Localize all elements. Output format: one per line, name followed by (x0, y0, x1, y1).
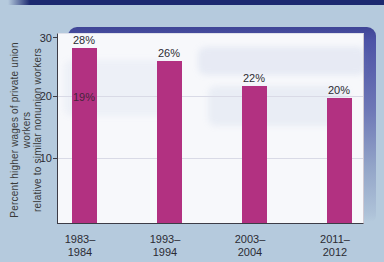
x-tick-label-2003-2004: 2003– 2004 (225, 233, 275, 258)
x-tick-label-2011-2012: 2011– 2012 (310, 233, 360, 258)
x-tick-line2: 1984 (55, 246, 105, 259)
bar-value-label: 22% (243, 72, 265, 84)
x-tick-line1: 1993– (140, 233, 190, 246)
y-axis-title: Percent higher wages of private union wo… (9, 30, 33, 230)
bar (327, 98, 352, 223)
x-tick-line2: 1994 (140, 246, 190, 259)
bar-value-label: 26% (158, 47, 180, 59)
x-tick-line2: 2012 (310, 246, 360, 259)
bar (242, 86, 267, 224)
y-tick-mark (53, 158, 58, 159)
bar-group-2003-2004: 22% (242, 34, 267, 223)
bar-group-2011-2012: 20% (327, 34, 352, 223)
gridline-10 (58, 158, 363, 159)
y-axis-title-line2: relative to similar nonunion workers (32, 30, 44, 230)
x-tick-line1: 1983– (55, 233, 105, 246)
bar-value-label: 20% (328, 84, 350, 96)
x-tick-line1: 2011– (310, 233, 360, 246)
x-tick-label-1983-1984: 1983– 1984 (55, 233, 105, 258)
page-edge-strip (0, 0, 384, 5)
plot-area: 19% 28% 26% 22% 20% (57, 33, 364, 224)
x-tick-label-1993-1994: 1993– 1994 (140, 233, 190, 258)
y-tick-mark (53, 37, 58, 38)
gridline-20 (58, 96, 363, 97)
bar (157, 61, 182, 224)
x-tick-line2: 2004 (225, 246, 275, 259)
bar (72, 48, 97, 223)
showthrough-label: 19% (73, 91, 95, 103)
bar-group-1983-1984: 19% 28% (72, 34, 97, 223)
bar-group-1993-1994: 26% (157, 34, 182, 223)
x-tick-line1: 2003– (225, 233, 275, 246)
figure-bar-chart: 19% 28% 26% 22% 20% 30 20 10 Percent hig… (0, 0, 384, 262)
y-tick-mark (53, 96, 58, 97)
y-axis-title-line1: Percent higher wages of private union wo… (9, 30, 32, 230)
bar-value-label: 28% (73, 34, 95, 46)
